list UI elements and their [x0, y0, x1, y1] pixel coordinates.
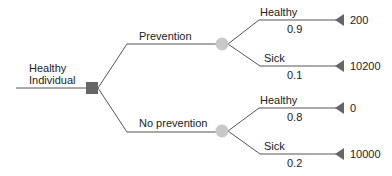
- outcome-probability: 0.1: [287, 69, 302, 82]
- outcome-value: 10200: [350, 60, 381, 73]
- outcome-label: Healthy: [260, 94, 297, 107]
- terminal-node-icon: [335, 102, 344, 114]
- terminal-node-icon: [335, 60, 344, 72]
- outcome-probability: 0.9: [287, 23, 302, 36]
- decision-node: [86, 82, 98, 94]
- terminal-node-icon: [335, 14, 344, 26]
- terminal-node-icon: [335, 148, 344, 160]
- outcome-label: Sick: [264, 140, 285, 153]
- chance-node-no-prevention: [216, 125, 229, 138]
- branch-label-no-prevention: No prevention: [139, 117, 208, 130]
- decision-tree-lines: [0, 0, 392, 176]
- outcome-probability: 0.2: [287, 157, 302, 170]
- chance-node-prevention: [216, 38, 229, 51]
- root-label-line2: Individual: [29, 74, 75, 87]
- outcome-value: 200: [350, 14, 368, 27]
- branch-label-prevention: Prevention: [139, 30, 192, 43]
- outcome-value: 0: [350, 102, 356, 115]
- outcome-value: 10000: [350, 148, 381, 161]
- outcome-label: Sick: [264, 52, 285, 65]
- outcome-label: Healthy: [260, 6, 297, 19]
- outcome-probability: 0.8: [287, 111, 302, 124]
